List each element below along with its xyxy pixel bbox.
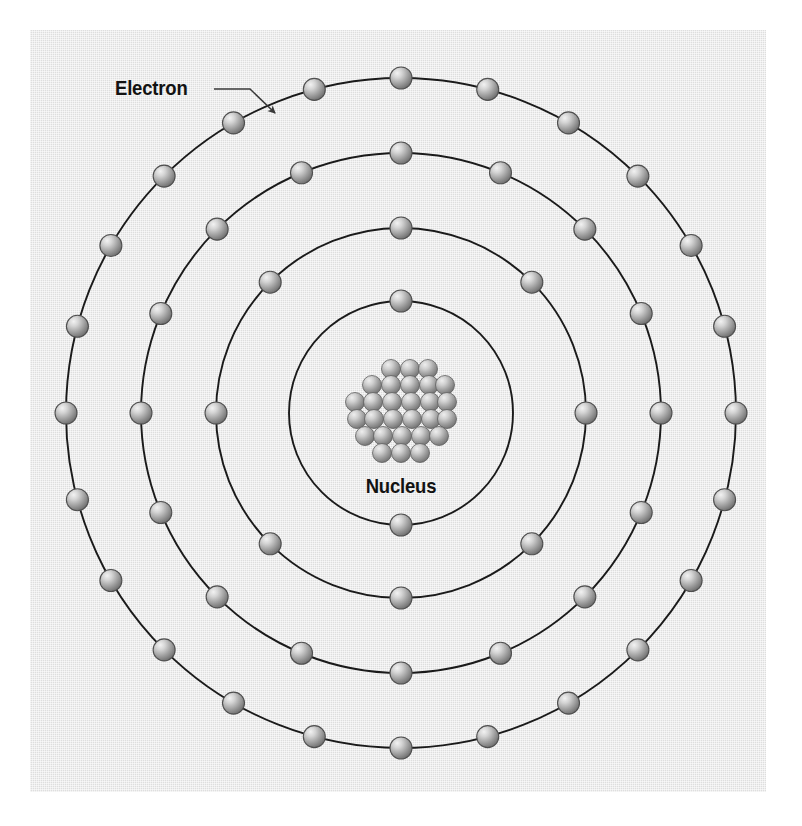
electron-shell4-10 <box>627 639 649 661</box>
nucleon <box>363 376 382 395</box>
electron-leader-path <box>214 89 275 113</box>
nucleon <box>403 410 422 429</box>
electron-shell4-1 <box>390 67 412 89</box>
electron-shell4-5 <box>680 235 702 257</box>
nucleon <box>364 393 383 412</box>
nucleon-sphere-3-5 <box>438 410 457 429</box>
nucleon-sphere-3-1 <box>365 410 384 429</box>
nucleon-sphere-1-2 <box>401 376 420 395</box>
nucleon <box>430 427 449 446</box>
electron-shell4-11 <box>558 692 580 714</box>
nucleon <box>402 393 421 412</box>
electron-shell1-1 <box>390 290 412 312</box>
nucleon <box>373 444 392 463</box>
nucleon <box>384 410 403 429</box>
electron-shell4-22 <box>153 165 175 187</box>
electron-shell4-12 <box>477 726 499 748</box>
electron-shell3-11 <box>206 586 228 608</box>
nucleon-sphere-3-3 <box>403 410 422 429</box>
nucleon <box>412 427 431 446</box>
nucleon-sphere-2-2 <box>383 393 402 412</box>
nucleon <box>411 444 430 463</box>
electron-shell3-9 <box>390 662 412 684</box>
electron-label: Electron <box>115 76 188 100</box>
electron-shell2-7 <box>205 402 227 424</box>
nucleon-sphere-1-4 <box>436 376 455 395</box>
nucleon-sphere-2-4 <box>421 393 440 412</box>
nucleon-sphere-2-1 <box>364 393 383 412</box>
nucleon-sphere-3-2 <box>384 410 403 429</box>
nucleon <box>436 376 455 395</box>
electron-shell4-23 <box>223 112 245 134</box>
nucleon <box>382 376 401 395</box>
electron-shell4-14 <box>303 726 325 748</box>
electron-shell2-8 <box>259 271 281 293</box>
nucleon-sphere-4-2 <box>393 427 412 446</box>
electron-shell3-12 <box>150 501 172 523</box>
nucleon-sphere-5-1 <box>392 444 411 463</box>
electron-shell3-14 <box>150 303 172 325</box>
nucleon-sphere-5-0 <box>373 444 392 463</box>
electron-shell1-2 <box>390 514 412 536</box>
nucleon <box>438 410 457 429</box>
nucleon-sphere-3-0 <box>348 410 367 429</box>
electron-shell3-3 <box>574 218 596 240</box>
electron-shell3-7 <box>574 586 596 608</box>
electron-shell3-6 <box>630 501 652 523</box>
nucleon-sphere-1-1 <box>382 376 401 395</box>
nucleon-sphere-4-0 <box>356 427 375 446</box>
electron-shell3-10 <box>291 642 313 664</box>
electron-leader-line <box>214 89 275 113</box>
electron-shell4-6 <box>714 315 736 337</box>
electron-shell2-3 <box>575 402 597 424</box>
electron-shell4-3 <box>558 112 580 134</box>
electron-shell4-17 <box>100 570 122 592</box>
electron-shell2-6 <box>259 533 281 555</box>
electron-shell3-15 <box>206 218 228 240</box>
electron-shell2-2 <box>521 271 543 293</box>
nucleon <box>374 427 393 446</box>
nucleon <box>421 393 440 412</box>
electron-shell2-4 <box>521 533 543 555</box>
nucleon-sphere-2-5 <box>438 393 457 412</box>
electron-shell2-5 <box>390 587 412 609</box>
electron-shell3-1 <box>390 142 412 164</box>
electron-shell4-13 <box>390 737 412 759</box>
electron-shell4-19 <box>55 402 77 424</box>
electron-shell4-16 <box>153 639 175 661</box>
nucleon-sphere-5-2 <box>411 444 430 463</box>
electron-shell4-15 <box>223 692 245 714</box>
nucleon <box>383 393 402 412</box>
electron-shell3-5 <box>650 402 672 424</box>
electron-shell3-13 <box>130 402 152 424</box>
nucleon <box>346 393 365 412</box>
electron-shell4-21 <box>100 235 122 257</box>
electron-shell3-16 <box>291 162 313 184</box>
electron-shell4-4 <box>627 165 649 187</box>
nucleon <box>438 393 457 412</box>
atom-diagram <box>0 0 802 826</box>
nucleon-sphere-4-1 <box>374 427 393 446</box>
nucleon <box>356 427 375 446</box>
electron-shell4-20 <box>66 315 88 337</box>
nucleon-sphere-4-4 <box>430 427 449 446</box>
nucleus-cluster <box>346 360 457 463</box>
nucleon <box>348 410 367 429</box>
nucleon-sphere-1-0 <box>363 376 382 395</box>
electron-shell3-2 <box>489 162 511 184</box>
nucleon <box>365 410 384 429</box>
electrons-group <box>55 67 747 759</box>
electron-shell4-2 <box>477 78 499 100</box>
electron-shell3-4 <box>630 303 652 325</box>
nucleon <box>401 376 420 395</box>
electron-shell4-24 <box>303 78 325 100</box>
electron-shell3-8 <box>489 642 511 664</box>
nucleon-sphere-2-3 <box>402 393 421 412</box>
electron-shell4-9 <box>680 570 702 592</box>
electron-shell2-1 <box>390 217 412 239</box>
nucleon-sphere-4-3 <box>412 427 431 446</box>
nucleon <box>393 427 412 446</box>
nucleon <box>392 444 411 463</box>
nucleon-sphere-2-0 <box>346 393 365 412</box>
electron-shell4-7 <box>725 402 747 424</box>
